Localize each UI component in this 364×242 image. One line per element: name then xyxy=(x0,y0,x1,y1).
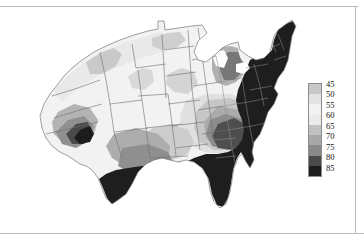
us-map-svg xyxy=(2,8,302,233)
legend-label-80: 80 xyxy=(326,153,335,162)
figure-container: 455055606570758085 xyxy=(0,0,364,242)
legend-label-55: 55 xyxy=(326,101,335,110)
legend-swatch-65 xyxy=(309,125,321,135)
top-divider-rule xyxy=(0,6,358,7)
legend-swatch-85 xyxy=(309,166,321,176)
legend-swatch-45 xyxy=(309,84,321,94)
legend-label-75: 75 xyxy=(326,143,335,152)
legend-swatch-50 xyxy=(309,94,321,104)
legend-swatch-75 xyxy=(309,145,321,155)
legend-swatch-80 xyxy=(309,156,321,166)
legend-label-70: 70 xyxy=(326,132,335,141)
legend-label-85: 85 xyxy=(326,164,335,173)
legend-swatch-70 xyxy=(309,135,321,145)
right-divider-rule xyxy=(355,6,356,234)
legend-tick-labels: 455055606570758085 xyxy=(326,79,352,181)
us-contour-map xyxy=(2,8,302,233)
legend-label-45: 45 xyxy=(326,80,335,89)
legend-colorbar xyxy=(308,83,322,177)
bottom-divider-rule xyxy=(0,233,364,234)
legend-swatch-55 xyxy=(309,104,321,114)
map-legend: 455055606570758085 xyxy=(308,83,354,181)
legend-label-65: 65 xyxy=(326,122,335,131)
legend-label-50: 50 xyxy=(326,90,335,99)
legend-swatch-60 xyxy=(309,115,321,125)
legend-label-60: 60 xyxy=(326,111,335,120)
